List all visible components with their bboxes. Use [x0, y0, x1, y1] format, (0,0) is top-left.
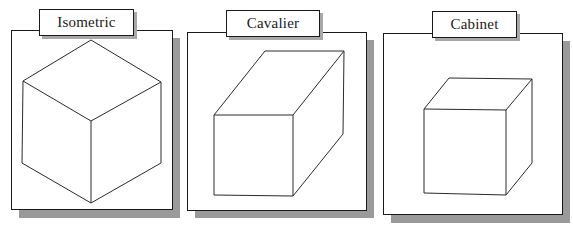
cavalier-label: Cavalier — [226, 10, 320, 37]
cabinet-label: Cabinet — [432, 11, 517, 38]
cavalier-panel — [187, 32, 367, 211]
isometric-label-text: Isometric — [57, 14, 115, 31]
isometric-label: Isometric — [39, 9, 134, 36]
isometric-panel — [11, 30, 173, 210]
cabinet-panel — [383, 33, 563, 215]
cabinet-label-text: Cabinet — [450, 16, 498, 33]
cavalier-label-text: Cavalier — [247, 15, 299, 32]
